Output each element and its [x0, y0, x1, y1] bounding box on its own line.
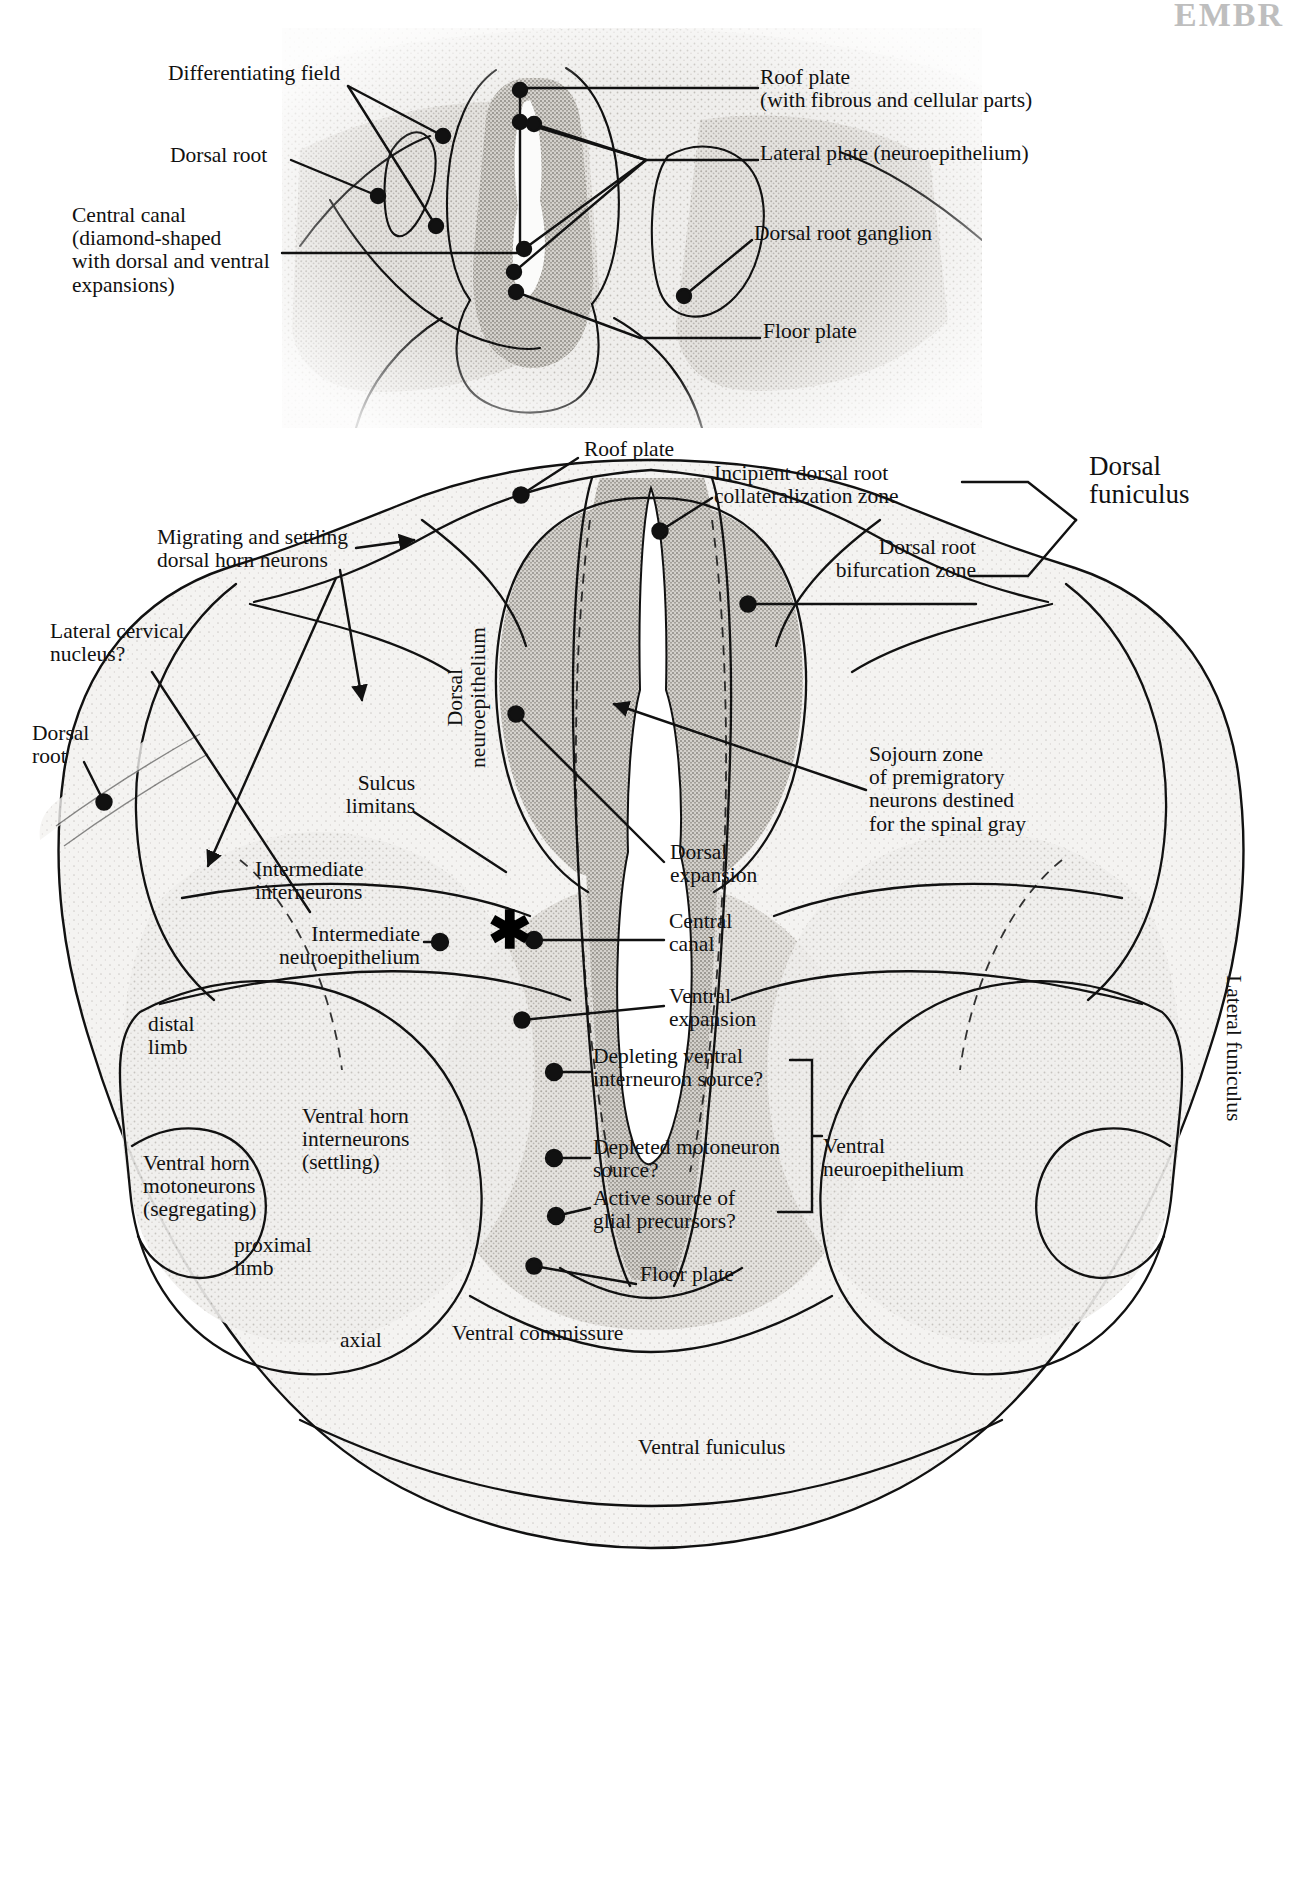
label-dorsal-root-2: Dorsal root [32, 722, 89, 768]
label-sojourn-zone: Sojourn zone of premigratory neurons des… [869, 743, 1026, 836]
label-intermediate-neuroepithelium: Intermediate neuroepithelium [190, 923, 420, 969]
label-dorsal-root-ganglion: Dorsal root ganglion [754, 222, 932, 245]
label-sulcus-limitans: Sulcus limitans [275, 772, 415, 818]
label-differentiating-field: Differentiating field [168, 62, 340, 85]
label-lateral-plate: Lateral plate (neuroepithelium) [760, 142, 1029, 165]
label-depleted-motoneuron-source: Depleted motoneuron source? [593, 1136, 780, 1182]
label-dorsal-neuroepithelium: Dorsal neuroepithelium [444, 627, 490, 768]
label-dorsal-root: Dorsal root [170, 144, 267, 167]
label-roof-plate-2: Roof plate [584, 438, 674, 461]
label-depleting-ventral-interneuron-source: Depleting ventral interneuron source? [593, 1045, 763, 1091]
label-proximal-limb: proximal limb [234, 1234, 312, 1280]
label-ventral-neuroepithelium: Ventral neuroepithelium [823, 1135, 964, 1181]
label-central-canal-2: Central canal [669, 910, 732, 956]
label-dorsal-root-bifurcation-zone: Dorsal root bifurcation zone [776, 536, 976, 582]
label-floor-plate-2: Floor plate [640, 1263, 734, 1286]
label-intermediate-interneurons: Intermediate interneurons [255, 858, 364, 904]
label-dorsal-expansion: Dorsal expansion [670, 841, 757, 887]
label-central-canal: Central canal (diamond-shaped with dorsa… [72, 204, 270, 297]
label-distal-limb: distal limb [148, 1013, 195, 1059]
label-ventral-horn-interneurons: Ventral horn interneurons (settling) [302, 1105, 409, 1175]
label-ventral-commissure: Ventral commissure [452, 1322, 623, 1345]
label-dorsal-funiculus: Dorsal funiculus [1089, 452, 1190, 509]
label-incipient-dorsal-root-collateralization-zone: Incipient dorsal root collateralization … [714, 462, 898, 508]
label-roof-plate: Roof plate (with fibrous and cellular pa… [760, 66, 1032, 112]
label-axial: axial [340, 1329, 382, 1352]
lower-cord-drawing [40, 460, 1244, 1548]
label-lateral-funiculus: Lateral funiculus [1222, 975, 1245, 1121]
label-floor-plate: Floor plate [763, 320, 857, 343]
figure-root: EMBR [0, 0, 1302, 1880]
label-migrating-settling-dorsal-horn-neurons: Migrating and settling dorsal horn neuro… [157, 526, 348, 572]
asterisk-marker: ✱ [488, 902, 532, 959]
label-lateral-cervical-nucleus: Lateral cervical nucleus? [50, 620, 184, 666]
label-ventral-horn-motoneurons: Ventral horn motoneurons (segregating) [143, 1152, 256, 1222]
label-active-source-glial-precursors: Active source of glial precursors? [593, 1187, 736, 1233]
label-ventral-funiculus: Ventral funiculus [638, 1436, 785, 1459]
label-ventral-expansion: Ventral expansion [669, 985, 756, 1031]
